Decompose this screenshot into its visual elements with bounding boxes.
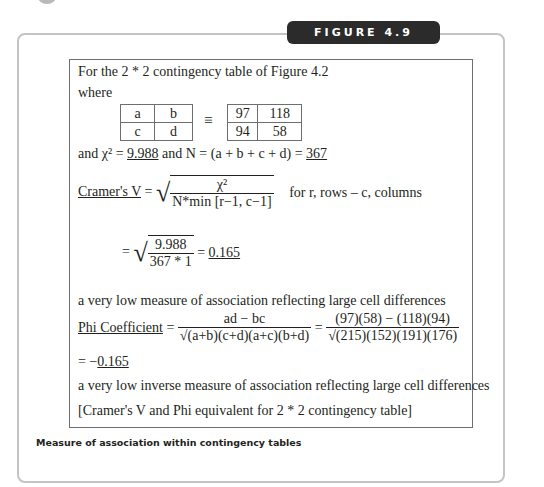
table-row: c d xyxy=(121,123,193,141)
phi-coefficient-label: Phi Coefficient xyxy=(78,320,163,335)
table-row: 97 118 xyxy=(228,105,302,123)
where-text: where xyxy=(78,85,112,101)
table-row: 94 58 xyxy=(228,123,302,141)
cramers-v-label: Cramer's V xyxy=(78,184,141,199)
symbolic-contingency-table: a b c d xyxy=(120,104,193,141)
cramers-note: for r, rows – c, columns xyxy=(289,185,422,200)
table-cell: c xyxy=(121,123,155,141)
table-cell: 94 xyxy=(228,123,258,141)
table-cell: 118 xyxy=(258,105,302,123)
cramers-v-calculation: = √9.988367 * 1 = 0.165 xyxy=(122,235,240,270)
table-cell: 97 xyxy=(228,105,258,123)
table-cell: d xyxy=(155,123,193,141)
phi-interpretation: a very low inverse measure of associatio… xyxy=(78,378,490,394)
cramers-v-formula: Cramer's V = √χ²N*min [r−1, c−1] for r, … xyxy=(78,175,422,210)
n-value: 367 xyxy=(306,146,327,161)
fraction: (97)(58) − (118)(94)√(215)(152)(191)(176… xyxy=(326,311,459,344)
table-cell: 58 xyxy=(258,123,302,141)
chi-square-value: 9.988 xyxy=(127,146,159,161)
table-cell: a xyxy=(121,105,155,123)
chi-square-line: and χ² = 9.988 and N = (a + b + c + d) =… xyxy=(78,146,327,162)
phi-coefficient-formula: Phi Coefficient = ad − bc√(a+b)(c+d)(a+c… xyxy=(78,311,459,344)
square-root: √χ²N*min [r−1, c−1] xyxy=(156,175,274,210)
table-row: a b xyxy=(121,105,193,123)
decorative-circle xyxy=(38,0,56,4)
fraction: χ²N*min [r−1, c−1] xyxy=(170,177,273,210)
phi-result: 0.165 xyxy=(97,354,129,369)
equivalence-symbol: ≡ xyxy=(204,112,212,129)
table-cell: b xyxy=(155,105,193,123)
formula-box: For the 2 * 2 contingency table of Figur… xyxy=(69,59,473,428)
figure-label: FIGURE 4.9 xyxy=(287,21,440,44)
fraction: ad − bc√(a+b)(c+d)(a+c)(b+d) xyxy=(178,311,311,344)
cramers-interpretation: a very low measure of association reflec… xyxy=(78,293,446,309)
fraction: 9.988367 * 1 xyxy=(148,237,194,270)
phi-result-line: = −0.165 xyxy=(78,354,129,370)
footnote: [Cramer's V and Phi equivalent for 2 * 2… xyxy=(78,403,412,419)
cramers-v-result: 0.165 xyxy=(209,245,241,260)
value-contingency-table: 97 118 94 58 xyxy=(227,104,302,141)
square-root: √9.988367 * 1 xyxy=(133,235,193,270)
figure-caption: Measure of association within contingenc… xyxy=(36,437,301,448)
intro-text: For the 2 * 2 contingency table of Figur… xyxy=(78,64,328,80)
